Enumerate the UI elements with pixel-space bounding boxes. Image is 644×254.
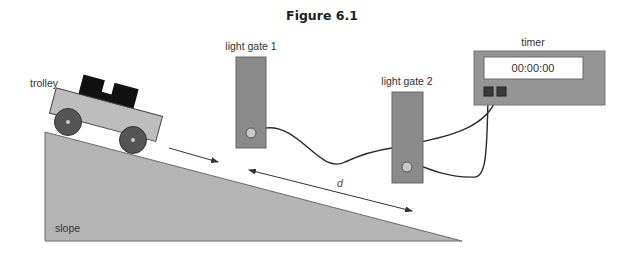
wheel-front bbox=[55, 109, 82, 136]
trolley-label: trolley bbox=[30, 77, 59, 89]
light-gate-1: light gate 1 bbox=[225, 40, 277, 148]
light-gate-1-sensor bbox=[246, 128, 256, 138]
slope-label: slope bbox=[55, 222, 80, 234]
timer-socket-2 bbox=[497, 87, 506, 96]
figure-6-1-diagram: Figure 6.1 slope trolley d bbox=[0, 0, 644, 254]
light-gate-2-sensor bbox=[402, 162, 412, 172]
figure-title: Figure 6.1 bbox=[286, 8, 358, 23]
distance-label: d bbox=[337, 177, 344, 189]
light-gate-2-label: light gate 2 bbox=[381, 75, 433, 87]
timer: timer 00:00:00 bbox=[474, 36, 605, 105]
wires bbox=[266, 96, 497, 177]
timer-label: timer bbox=[521, 36, 545, 48]
light-gate-1-label: light gate 1 bbox=[225, 40, 277, 52]
light-gate-2: light gate 2 bbox=[381, 75, 433, 183]
motion-arrow bbox=[169, 148, 218, 162]
timer-display-value: 00:00:00 bbox=[512, 62, 555, 74]
wheel-rear bbox=[120, 127, 147, 154]
timer-socket-1 bbox=[484, 87, 493, 96]
